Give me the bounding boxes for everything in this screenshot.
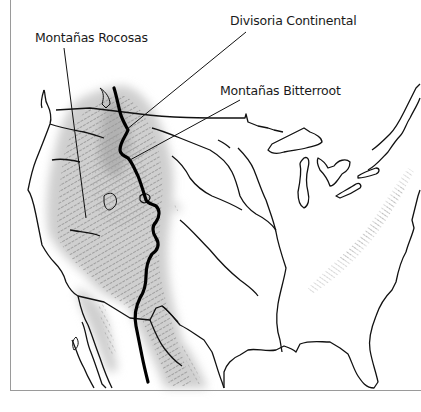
lake-huron [317,158,350,186]
label-bitterroot-mountains: Montañas Bitterroot [220,83,341,98]
lake-superior [268,128,322,153]
atlantic-coast [406,190,420,252]
leader-divisoria [126,32,246,130]
lake-erie [336,183,361,198]
lake-michigan [298,157,309,208]
frame-bottom-border [10,390,421,391]
frame-left-border [10,0,11,391]
mississippi-river [238,148,286,352]
gulf-coast [224,252,406,388]
label-rocky-mountains: Montañas Rocosas [35,30,148,45]
label-continental-divide: Divisoria Continental [230,13,356,28]
us-relief-map [0,0,421,412]
